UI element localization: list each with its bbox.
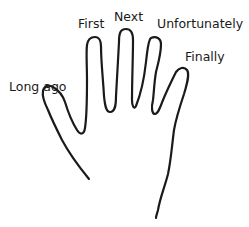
hand-diagram: Long ago First Next Unfortunately Finall… — [0, 0, 249, 227]
index-finger-label: First — [78, 18, 104, 31]
thumb-label: Long ago — [9, 81, 66, 94]
middle-finger-label: Next — [114, 11, 143, 24]
hand-outline-icon — [0, 0, 249, 227]
pinky-finger-label: Finally — [185, 51, 225, 64]
ring-finger-label: Unfortunately — [157, 18, 243, 31]
